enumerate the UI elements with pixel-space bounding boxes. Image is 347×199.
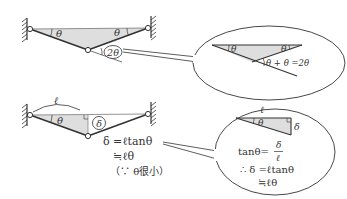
top-callout-bubble: θ θ θ + θ =2θ (193, 26, 345, 100)
bottom-angle-label: θ (57, 115, 63, 126)
top-angle-left-label: θ (56, 28, 62, 39)
shaded-triangle (30, 28, 148, 50)
callout-angle-right-label: θ (281, 44, 287, 54)
bottom-truss-diagram: ℓ θ δ δ =ℓtanθ ≒ℓθ （∵ (22, 95, 169, 177)
callout-equation-line3: ≒ℓθ (258, 177, 277, 188)
right-wall-support (151, 16, 156, 40)
callout-length-label: ℓ (260, 104, 264, 115)
figure: θ θ 2θ θ θ θ + θ =2θ ℓ (0, 0, 347, 199)
bottom-right-wall-support (151, 102, 156, 126)
left-wall-support (22, 18, 27, 42)
deflection-equation-line3: （∵ θ很小） (110, 165, 169, 177)
top-angle-right-label: θ (114, 27, 120, 38)
tan-equation-lhs: tanθ= (238, 146, 269, 157)
fraction-denominator: ℓ (276, 153, 280, 163)
right-pin-joint (145, 25, 150, 30)
callout-angle-sum-equation: θ + θ =2θ (266, 58, 309, 68)
deflection-equation-line1: δ =ℓtanθ (103, 135, 153, 148)
top-angle-bottom-label: 2θ (106, 47, 119, 58)
bottom-left-wall-support (22, 104, 27, 128)
left-pin-joint (27, 26, 32, 31)
bottom-deflection-label: δ (96, 118, 102, 129)
callout-angle-label: θ (258, 118, 264, 128)
deflection-equation-line2: ≒ℓθ (113, 150, 134, 163)
callout-equation-line2: ∴ δ =ℓtanθ (240, 164, 294, 175)
callout-side-label: δ (294, 121, 300, 132)
center-pin-joint (85, 47, 90, 52)
top-callout-leader (123, 49, 197, 62)
bottom-callout-leader (163, 142, 217, 159)
top-truss-diagram: θ θ 2θ (22, 16, 156, 62)
callout-angle-left-label: θ (231, 44, 237, 54)
bottom-callout-bubble: ℓ θ δ tanθ= δ ℓ ∴ δ =ℓtanθ ≒ℓθ (214, 104, 335, 195)
diagram-canvas: θ θ 2θ θ θ θ + θ =2θ ℓ (0, 0, 347, 199)
bottom-length-label: ℓ (54, 95, 58, 106)
fraction-numerator: δ (276, 140, 281, 150)
